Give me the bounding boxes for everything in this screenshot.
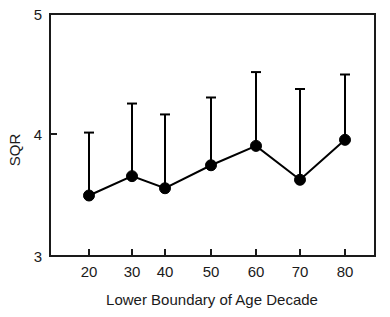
chart-figure: 5 4 3 SQR 20 30 40 50 60 70 80 Lower Bou bbox=[0, 0, 390, 317]
y-axis-tick-labels: 5 4 3 bbox=[34, 6, 42, 265]
x-tick-label-30: 30 bbox=[124, 263, 141, 280]
x-tick-label-60: 60 bbox=[248, 263, 265, 280]
x-axis-title: Lower Boundary of Age Decade bbox=[106, 291, 318, 308]
data-markers-group bbox=[84, 134, 351, 201]
x-tick-label-50: 50 bbox=[203, 263, 220, 280]
plot-frame bbox=[50, 14, 375, 256]
data-point-marker bbox=[84, 190, 95, 201]
series-line bbox=[89, 140, 345, 196]
data-point-marker bbox=[160, 183, 171, 194]
x-tick-label-20: 20 bbox=[81, 263, 98, 280]
data-point-marker bbox=[127, 171, 138, 182]
y-tick-label-5: 5 bbox=[34, 6, 42, 23]
error-bars-group bbox=[84, 72, 350, 195]
y-tick-label-4: 4 bbox=[34, 126, 42, 143]
data-point-marker bbox=[295, 174, 306, 185]
data-point-marker bbox=[206, 160, 217, 171]
y-axis-title: SQR bbox=[6, 134, 23, 167]
x-axis-tick-labels: 20 30 40 50 60 70 80 bbox=[81, 263, 354, 280]
x-tick-label-80: 80 bbox=[337, 263, 354, 280]
x-axis-ticks bbox=[89, 249, 345, 256]
x-tick-label-70: 70 bbox=[292, 263, 309, 280]
data-point-marker bbox=[340, 134, 351, 145]
x-tick-label-40: 40 bbox=[157, 263, 174, 280]
chart-svg: 5 4 3 SQR 20 30 40 50 60 70 80 Lower Bou bbox=[0, 0, 390, 317]
y-axis-ticks bbox=[50, 14, 57, 256]
y-tick-label-3: 3 bbox=[34, 248, 42, 265]
data-point-marker bbox=[251, 140, 262, 151]
